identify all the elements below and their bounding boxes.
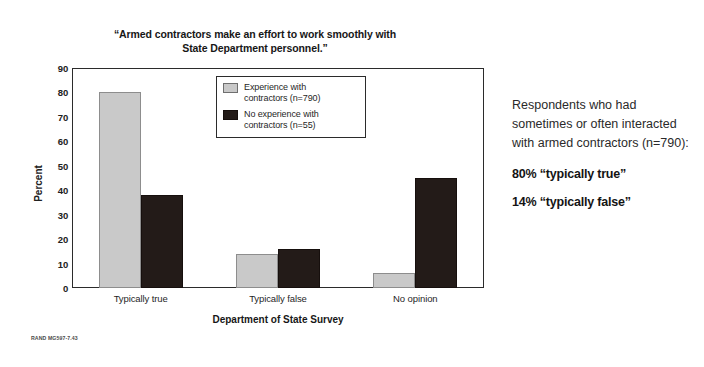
side-note-panel: Respondents who had sometimes or often i… — [512, 96, 692, 209]
legend-label-experience-line-1: Experience with — [244, 82, 306, 92]
chart-title-line-2: State Department personnel.” — [60, 41, 450, 55]
bar-no-experience — [415, 178, 457, 288]
y-axis-tick-label: 80 — [46, 87, 68, 98]
legend-label-no-experience-line-1: No experience with — [244, 109, 319, 119]
y-axis-tick-label: 30 — [46, 209, 68, 220]
x-axis-title: Department of State Survey — [72, 314, 484, 325]
y-axis-tick-label: 20 — [46, 234, 68, 245]
x-axis-category-label: Typically false — [218, 293, 338, 304]
y-axis-tick-label: 90 — [46, 63, 68, 74]
chart-legend: Experience with contractors (n=790) No e… — [216, 76, 366, 138]
x-axis-category-label: Typically true — [81, 293, 201, 304]
bar-no-experience — [141, 195, 183, 288]
chart-title-line-1: “Armed contractors make an effort to wor… — [60, 27, 450, 41]
bar-experience — [373, 273, 415, 288]
bar-no-experience — [278, 249, 320, 288]
chart-title: “Armed contractors make an effort to wor… — [60, 27, 450, 55]
side-note-stat-typically-true: 80% “typically true” — [512, 167, 692, 181]
side-note-stat-typically-false: 14% “typically false” — [512, 195, 692, 209]
y-axis-tick-label: 60 — [46, 136, 68, 147]
y-axis-tick-label: 50 — [46, 160, 68, 171]
x-axis-category-label: No opinion — [355, 293, 475, 304]
legend-swatch-black-icon — [223, 110, 238, 120]
y-axis-tick-labels: 9080706050403020100 — [40, 68, 68, 288]
y-axis-tick-label: 10 — [46, 258, 68, 269]
legend-item-no-experience: No experience with contractors (n=55) — [223, 109, 359, 131]
side-note-body: Respondents who had sometimes or often i… — [512, 96, 692, 153]
y-axis-tick-label: 70 — [46, 111, 68, 122]
legend-item-experience: Experience with contractors (n=790) — [223, 82, 359, 104]
legend-label-no-experience-line-2: contractors (n=55) — [244, 120, 315, 130]
bar-chart: “Armed contractors make an effort to wor… — [0, 0, 500, 367]
legend-label-experience-line-2: contractors (n=790) — [244, 93, 320, 103]
y-axis-tick-label: 0 — [46, 283, 68, 294]
y-axis-tick-label: 40 — [46, 185, 68, 196]
bar-experience — [99, 92, 141, 288]
figure-container: “Armed contractors make an effort to wor… — [0, 0, 704, 367]
legend-swatch-gray-icon — [223, 83, 238, 93]
legend-label-no-experience: No experience with contractors (n=55) — [244, 109, 319, 131]
bar-experience — [236, 254, 278, 288]
legend-label-experience: Experience with contractors (n=790) — [244, 82, 320, 104]
figure-source-id: RAND MG597-7.43 — [31, 335, 78, 341]
